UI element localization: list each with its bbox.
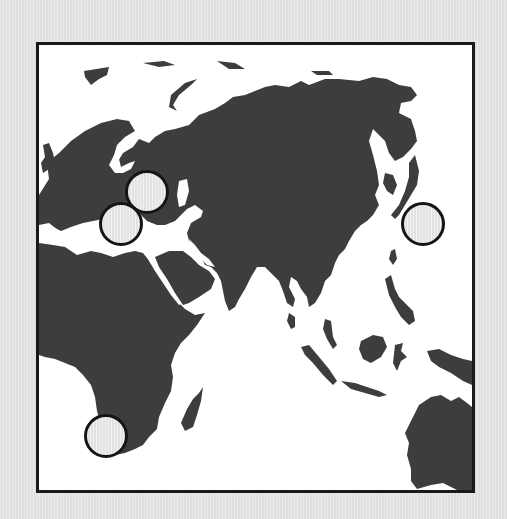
land-malay-peninsula (323, 319, 337, 349)
map-marker-japan[interactable]: Japan (401, 202, 445, 246)
land-philippines (385, 275, 415, 325)
land-australia (405, 395, 472, 490)
land-sulawesi (393, 343, 407, 371)
land-java (341, 381, 387, 397)
land-new-guinea (427, 349, 472, 385)
land-madagascar (181, 387, 203, 431)
map-marker-south-africa[interactable]: South Africa (84, 414, 128, 458)
land-taiwan (389, 249, 397, 265)
land-svalbard (84, 67, 109, 85)
land-borneo (359, 335, 387, 363)
map-marker-southern-europe[interactable]: Southern Europe (99, 202, 143, 246)
water-white-sea (135, 125, 151, 135)
land-novaya-zemlya (169, 79, 197, 111)
map-frame[interactable]: Eastern Europe Southern Europe Japan Sou… (36, 42, 475, 493)
land-sumatra (301, 345, 337, 385)
land-sri-lanka (287, 313, 295, 329)
land-arctic-islands (143, 61, 333, 75)
